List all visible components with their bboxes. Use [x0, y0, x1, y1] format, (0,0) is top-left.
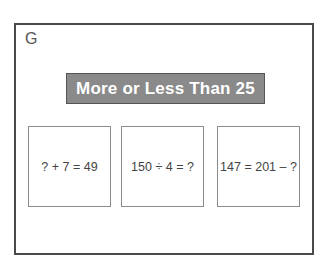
- equation-text: ? + 7 = 49: [41, 160, 97, 174]
- panel-letter-label: G: [25, 31, 37, 47]
- equation-text: 147 = 201 – ?: [220, 160, 297, 174]
- equation-card[interactable]: ? + 7 = 49: [28, 126, 111, 207]
- equation-card[interactable]: 150 ÷ 4 = ?: [121, 126, 204, 207]
- equation-text: 150 ÷ 4 = ?: [131, 160, 194, 174]
- title-banner: More or Less Than 25: [66, 73, 265, 104]
- equation-card[interactable]: 147 = 201 – ?: [217, 126, 300, 207]
- activity-panel: G More or Less Than 25 ? + 7 = 49 150 ÷ …: [14, 23, 314, 255]
